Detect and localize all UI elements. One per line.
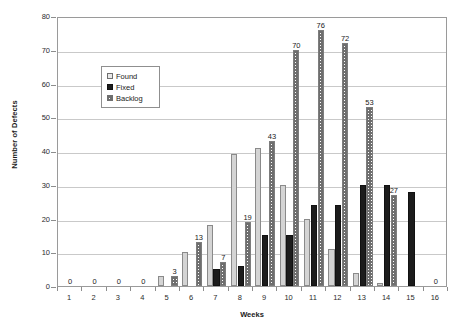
legend-item-fixed[interactable]: Fixed: [107, 82, 154, 92]
bar-fixed-week-13: [360, 185, 366, 286]
legend-label: Backlog: [116, 94, 143, 103]
x-tick-mark: [203, 287, 204, 291]
y-tick-mark: [51, 186, 56, 187]
bar-found-week-13: [353, 273, 359, 287]
fixed-swatch-icon: [107, 84, 113, 90]
y-tick-mark: [51, 287, 56, 288]
x-tick-label: 6: [179, 293, 203, 302]
y-tick-label: 20: [24, 216, 50, 224]
y-tick-mark: [51, 220, 56, 221]
bar-fixed-week-14: [384, 185, 390, 286]
x-tick-label: 15: [398, 293, 422, 302]
y-tick-mark: [51, 253, 56, 254]
y-tick-label: 50: [24, 114, 50, 122]
x-tick-label: 13: [350, 293, 374, 302]
x-tick-mark: [301, 287, 302, 291]
x-tick-mark: [398, 287, 399, 291]
bar-fixed-week-7: [213, 269, 219, 286]
bar-value-label-week-7: 7: [213, 254, 233, 262]
y-tick-label: 70: [24, 47, 50, 55]
legend-item-found[interactable]: Found: [107, 71, 154, 81]
bar-fixed-week-11: [311, 205, 317, 286]
bar-value-label-week-10: 70: [286, 42, 306, 50]
y-axis-title: Number of Defects: [10, 75, 19, 195]
x-tick-label: 4: [130, 293, 154, 302]
y-tick-label: 30: [24, 182, 50, 190]
plot-area: 000031371943707672532700: [57, 17, 447, 287]
bar-backlog-week-6: [196, 242, 202, 286]
x-tick-mark: [252, 287, 253, 291]
bar-value-label-week-15: 0: [401, 278, 421, 286]
bar-backlog-week-10: [293, 50, 299, 286]
bar-fixed-week-8: [238, 266, 244, 286]
bar-value-label-week-1: 0: [60, 278, 80, 286]
y-tick-label: 10: [24, 249, 50, 257]
bar-value-label-week-14: 27: [384, 187, 404, 195]
x-tick-mark: [423, 287, 424, 291]
x-tick-mark: [179, 287, 180, 291]
x-axis: Weeks 12345678910111213141516: [57, 287, 447, 331]
y-tick-mark: [51, 85, 56, 86]
bar-backlog-week-9: [269, 141, 275, 286]
x-tick-mark: [81, 287, 82, 291]
x-tick-label: 2: [82, 293, 106, 302]
bar-fixed-week-9: [262, 235, 268, 286]
x-tick-label: 14: [374, 293, 398, 302]
x-tick-mark: [325, 287, 326, 291]
found-swatch-icon: [107, 73, 113, 79]
legend-label: Fixed: [116, 83, 134, 92]
bar-found-week-8: [231, 154, 237, 286]
y-tick-mark: [51, 17, 56, 18]
backlog-swatch-icon: [107, 95, 113, 101]
x-tick-label: 9: [252, 293, 276, 302]
x-tick-label: 5: [155, 293, 179, 302]
bar-value-label-week-13: 53: [359, 99, 379, 107]
x-tick-mark: [350, 287, 351, 291]
x-tick-mark: [57, 287, 58, 291]
x-tick-mark: [447, 287, 448, 291]
x-tick-mark: [130, 287, 131, 291]
legend-item-backlog[interactable]: Backlog: [107, 93, 154, 103]
bar-found-week-10: [280, 185, 286, 286]
y-tick-mark: [51, 118, 56, 119]
bar-value-label-week-6: 13: [189, 234, 209, 242]
bar-found-week-12: [328, 249, 334, 286]
x-tick-label: 16: [423, 293, 447, 302]
bar-value-label-week-4: 0: [133, 278, 153, 286]
bar-value-label-week-12: 72: [335, 35, 355, 43]
bar-value-label-week-2: 0: [85, 278, 105, 286]
gridline: [58, 18, 446, 19]
bar-value-label-week-3: 0: [109, 278, 129, 286]
x-tick-mark: [374, 287, 375, 291]
x-tick-label: 10: [277, 293, 301, 302]
y-tick-label: 40: [24, 148, 50, 156]
x-tick-label: 3: [106, 293, 130, 302]
bar-found-week-5: [158, 276, 164, 286]
chart-legend: FoundFixedBacklog: [101, 66, 160, 108]
x-tick-label: 1: [57, 293, 81, 302]
bar-value-label-week-8: 19: [238, 214, 258, 222]
x-tick-mark: [276, 287, 277, 291]
defects-bar-chart: Number of Defects 01020304050607080 0000…: [0, 0, 470, 331]
bar-value-label-week-9: 43: [262, 133, 282, 141]
x-tick-mark: [106, 287, 107, 291]
y-tick-mark: [51, 51, 56, 52]
bar-fixed-week-15: [408, 192, 414, 287]
x-tick-label: 12: [325, 293, 349, 302]
x-tick-label: 8: [228, 293, 252, 302]
x-tick-mark: [228, 287, 229, 291]
y-tick-label: 60: [24, 81, 50, 89]
bar-backlog-week-12: [342, 43, 348, 286]
x-axis-title: Weeks: [57, 310, 447, 319]
bar-found-week-14: [377, 283, 383, 286]
bar-fixed-week-12: [335, 205, 341, 286]
bar-value-label-week-5: 3: [164, 268, 184, 276]
bar-value-label-week-16: 0: [426, 278, 446, 286]
y-tick-label: 0: [24, 283, 50, 291]
x-tick-mark: [155, 287, 156, 291]
bar-backlog-week-11: [318, 30, 324, 287]
bar-backlog-week-7: [220, 262, 226, 286]
bar-fixed-week-10: [286, 235, 292, 286]
x-tick-label: 11: [301, 293, 325, 302]
bar-backlog-week-8: [245, 222, 251, 286]
